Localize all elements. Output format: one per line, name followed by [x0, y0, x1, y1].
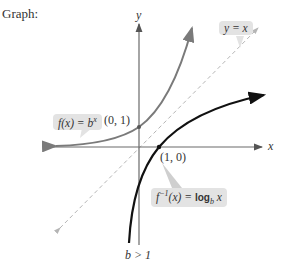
point-0-1 [137, 125, 141, 129]
exp-callout-text: f(x) = b [58, 117, 93, 129]
log-callout-tail [162, 163, 182, 188]
exp-function-callout: f(x) = bx [53, 114, 102, 130]
function-graph [0, 0, 281, 265]
point-1-0-label: (1, 0) [160, 150, 186, 165]
log-callout-fn: log [195, 192, 210, 203]
log-callout-arg: x [214, 191, 222, 203]
x-axis-label: x [268, 139, 273, 154]
point-0-1-label: (0, 1) [104, 113, 130, 128]
identity-line-callout: y = x [219, 21, 253, 35]
condition-label: b > 1 [125, 248, 151, 263]
exp-callout-exponent: x [93, 115, 97, 124]
y-axis-label: y [136, 8, 141, 23]
log-callout-mid: (x) = [169, 191, 195, 203]
line-callout-tail [236, 36, 244, 48]
log-callout-inverse: −1 [159, 189, 168, 198]
point-1-0 [157, 145, 161, 149]
log-function-callout: f−1(x) = logb x [151, 188, 227, 207]
